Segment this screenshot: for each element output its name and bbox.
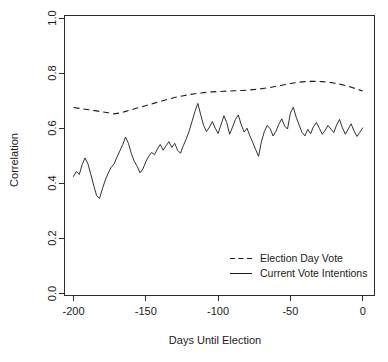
- x-axis-title: Days Until Election: [169, 334, 261, 346]
- y-tick-label-0: 0.0: [46, 286, 58, 301]
- y-tick-label-5: 1.0: [46, 10, 58, 25]
- y-tick-label-4: 0.8: [46, 65, 58, 80]
- x-tick-label-3: -50: [282, 305, 298, 317]
- chart-background: [0, 0, 388, 362]
- x-tick-label-4: 0: [360, 305, 366, 317]
- legend-label-election-day-vote: Election Day Vote: [260, 252, 343, 264]
- x-tick-label-1: -150: [135, 305, 157, 317]
- x-tick-label-0: -200: [62, 305, 84, 317]
- y-axis-title: Correlation: [8, 133, 20, 187]
- chart-figure: 0.0 0.2 0.4 0.6 0.8 1.0 -200 -150 -100 -…: [0, 0, 388, 362]
- y-tick-label-2: 0.4: [46, 175, 58, 190]
- x-tick-label-2: -100: [207, 305, 229, 317]
- legend-label-current-vote-intentions: Current Vote Intentions: [260, 267, 367, 279]
- y-tick-label-3: 0.6: [46, 120, 58, 135]
- correlation-line-chart: 0.0 0.2 0.4 0.6 0.8 1.0 -200 -150 -100 -…: [0, 0, 388, 362]
- y-tick-label-1: 0.2: [46, 230, 58, 245]
